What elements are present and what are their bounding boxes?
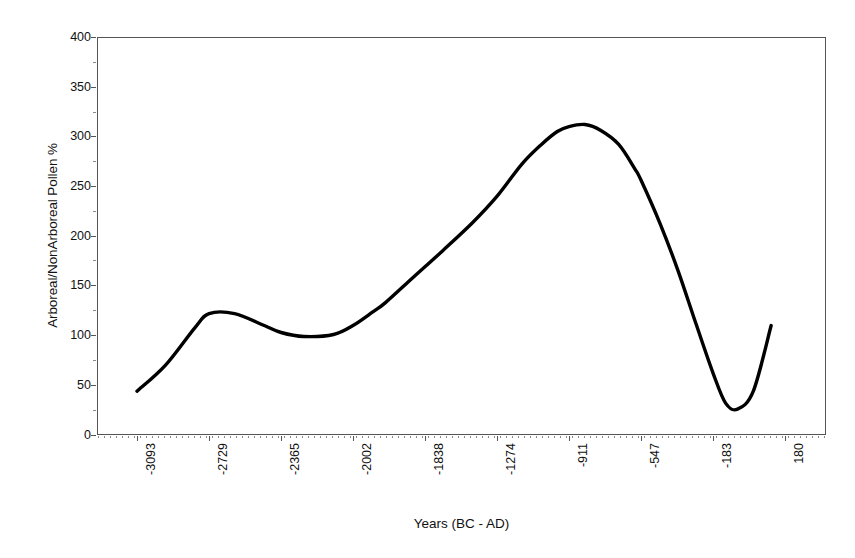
x-tick-label: -2729	[216, 443, 230, 513]
y-tick-label: 50	[51, 379, 91, 391]
x-minor-tick	[314, 436, 315, 438]
x-minor-tick	[206, 436, 207, 438]
x-tick-label: -3093	[144, 443, 158, 513]
x-tick-label: -1838	[432, 443, 446, 513]
x-minor-tick	[728, 436, 729, 438]
x-tick-label: -2365	[288, 443, 302, 513]
x-minor-tick	[176, 436, 177, 438]
x-minor-tick	[386, 436, 387, 438]
x-minor-tick	[704, 436, 705, 438]
y-tick-label: 250	[51, 180, 91, 192]
x-tick-label: -2002	[360, 443, 374, 513]
x-minor-tick	[572, 436, 573, 438]
x-tick-label: 180	[792, 443, 806, 513]
x-minor-tick	[476, 436, 477, 438]
x-minor-tick	[248, 436, 249, 438]
x-minor-tick	[122, 436, 123, 438]
x-minor-tick	[614, 436, 615, 438]
x-minor-tick	[236, 436, 237, 438]
x-minor-tick	[158, 436, 159, 438]
y-tick-label: 100	[51, 329, 91, 341]
x-minor-tick	[356, 436, 357, 438]
x-minor-tick	[806, 436, 807, 438]
x-tick-mark	[353, 436, 354, 441]
x-minor-tick	[362, 436, 363, 438]
y-tick-mark	[91, 87, 96, 88]
y-tick-mark	[91, 335, 96, 336]
x-minor-tick	[674, 436, 675, 438]
x-minor-tick	[710, 436, 711, 438]
x-minor-tick	[116, 436, 117, 438]
x-minor-tick	[242, 436, 243, 438]
y-tick-label: 150	[51, 279, 91, 291]
x-minor-tick	[752, 436, 753, 438]
x-minor-tick	[662, 436, 663, 438]
x-minor-tick	[344, 436, 345, 438]
x-minor-tick	[626, 436, 627, 438]
x-minor-tick	[656, 436, 657, 438]
x-minor-tick	[812, 436, 813, 438]
x-minor-tick	[380, 436, 381, 438]
x-minor-tick	[758, 436, 759, 438]
x-minor-tick	[692, 436, 693, 438]
x-minor-tick	[104, 436, 105, 438]
x-minor-tick	[422, 436, 423, 438]
x-minor-tick	[608, 436, 609, 438]
x-minor-tick	[698, 436, 699, 438]
x-minor-tick	[134, 436, 135, 438]
x-tick-mark	[425, 436, 426, 441]
x-minor-tick	[782, 436, 783, 438]
x-tick-mark	[785, 436, 786, 441]
y-tick-label: 300	[51, 130, 91, 142]
y-minor-tick	[93, 410, 96, 411]
x-minor-tick	[638, 436, 639, 438]
chart-figure: Arboreal/NonArboreal Pollen % 400 350 30…	[0, 0, 855, 558]
x-minor-tick	[428, 436, 429, 438]
y-minor-tick	[93, 360, 96, 361]
x-minor-tick	[284, 436, 285, 438]
x-minor-tick	[230, 436, 231, 438]
x-tick-mark	[569, 436, 570, 441]
x-minor-tick	[218, 436, 219, 438]
y-minor-tick	[93, 260, 96, 261]
x-minor-tick	[296, 436, 297, 438]
x-minor-tick	[644, 436, 645, 438]
x-minor-tick	[272, 436, 273, 438]
x-minor-tick	[716, 436, 717, 438]
x-minor-tick	[128, 436, 129, 438]
x-minor-tick	[140, 436, 141, 438]
x-minor-tick	[494, 436, 495, 438]
x-minor-tick	[578, 436, 579, 438]
x-minor-tick	[686, 436, 687, 438]
x-minor-tick	[410, 436, 411, 438]
x-minor-tick	[740, 436, 741, 438]
x-minor-tick	[470, 436, 471, 438]
x-minor-tick	[794, 436, 795, 438]
y-minor-tick	[93, 211, 96, 212]
y-tick-mark	[91, 285, 96, 286]
x-minor-tick	[398, 436, 399, 438]
x-minor-tick	[338, 436, 339, 438]
x-minor-tick	[548, 436, 549, 438]
y-minor-tick	[93, 62, 96, 63]
y-tick-mark	[91, 435, 96, 436]
y-minor-tick	[93, 112, 96, 113]
x-minor-tick	[224, 436, 225, 438]
x-minor-tick	[668, 436, 669, 438]
x-minor-tick	[170, 436, 171, 438]
y-tick-label: 400	[51, 31, 91, 43]
x-minor-tick	[776, 436, 777, 438]
x-minor-tick	[302, 436, 303, 438]
x-minor-tick	[350, 436, 351, 438]
x-minor-tick	[458, 436, 459, 438]
x-minor-tick	[440, 436, 441, 438]
x-minor-tick	[530, 436, 531, 438]
y-minor-tick	[93, 310, 96, 311]
x-minor-tick	[326, 436, 327, 438]
x-minor-tick	[266, 436, 267, 438]
x-minor-tick	[524, 436, 525, 438]
x-tick-label: -183	[720, 443, 734, 513]
x-minor-tick	[332, 436, 333, 438]
x-minor-tick	[482, 436, 483, 438]
x-minor-tick	[164, 436, 165, 438]
